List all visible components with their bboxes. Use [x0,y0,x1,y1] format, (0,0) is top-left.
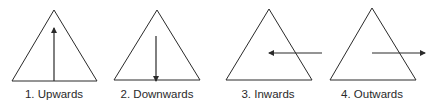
label-outwards: 4. Outwards [341,87,403,101]
triangle-outwards [330,8,416,80]
label-downwards: 2. Downwards [121,87,194,101]
panel-downwards [114,10,200,81]
panel-upwards [12,10,97,81]
label-inwards: 3. Inwards [241,87,294,101]
triangle-inwards [226,9,312,80]
triangle-downwards [114,10,200,80]
panel-outwards [330,8,425,80]
label-upwards: 1. Upwards [25,87,83,101]
panel-inwards [226,9,322,80]
